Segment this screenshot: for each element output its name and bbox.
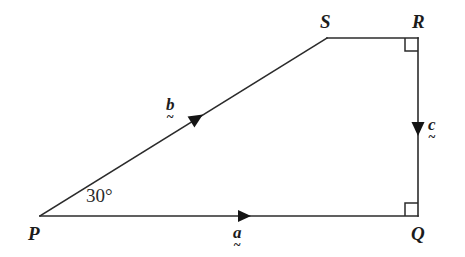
vertex-label-s: S bbox=[320, 12, 331, 31]
right-angle-mark-r bbox=[405, 38, 418, 51]
arrowhead-vector-a bbox=[238, 210, 251, 222]
vertex-label-r: R bbox=[412, 12, 425, 31]
angle-label-30-degrees: 30° bbox=[86, 186, 113, 205]
arrowhead-vector-c bbox=[412, 122, 425, 136]
vector-c-tilde: ~ bbox=[428, 134, 436, 141]
vector-label-a: a ~ bbox=[233, 224, 242, 249]
vector-arrowheads bbox=[188, 109, 425, 222]
vector-label-c: c ~ bbox=[428, 116, 436, 141]
vector-a-tilde: ~ bbox=[233, 242, 242, 249]
edge-ps-vector-b bbox=[40, 38, 327, 216]
vertex-label-q: Q bbox=[411, 224, 425, 243]
right-angle-mark-q bbox=[405, 203, 418, 216]
arrowhead-vector-b bbox=[188, 109, 207, 127]
vertex-label-p: P bbox=[28, 224, 40, 243]
diagram-canvas: P Q R S 30° a ~ b ~ c ~ bbox=[0, 0, 465, 257]
vector-label-b: b ~ bbox=[166, 96, 175, 121]
vector-diagram-figure bbox=[0, 0, 465, 257]
vector-b-tilde: ~ bbox=[166, 114, 175, 121]
